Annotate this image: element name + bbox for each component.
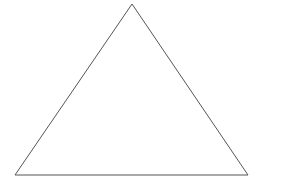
diagram-canvas [0,0,283,183]
triangle-outline [15,4,248,175]
triangle-figure [0,0,283,183]
